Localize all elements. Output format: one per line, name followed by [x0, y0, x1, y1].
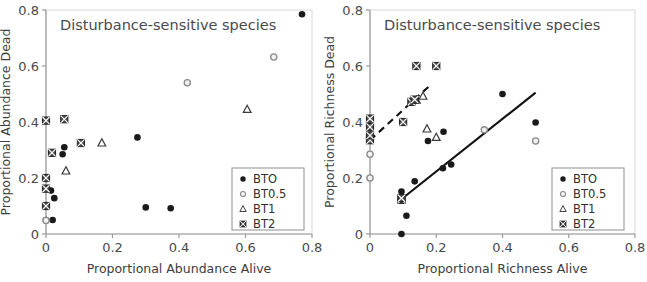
richness-scatter-plot: 00.20.40.60.800.20.40.60.8Proportional R… [324, 0, 647, 282]
data-point-BT2 [400, 118, 407, 125]
legend[interactable]: BTOBT0.5BT1BT2 [552, 168, 624, 231]
x-tick-label: 0 [366, 240, 374, 255]
legend-label: BT2 [573, 217, 595, 231]
data-point-BT2 [42, 202, 49, 209]
data-point-BTO [448, 161, 455, 168]
x-axis-title: Proportional Richness Alive [418, 261, 588, 276]
x-tick-label: 0.6 [558, 240, 579, 255]
legend-label: BT1 [573, 202, 595, 216]
data-point-BT2 [433, 62, 440, 69]
legend-marker-open-circle [560, 191, 565, 196]
data-point-BTO [425, 138, 432, 145]
data-point-BT2 [398, 195, 405, 202]
x-tick-label: 0 [42, 240, 50, 255]
data-point-BT2 [366, 123, 373, 130]
y-tick-label: 0.8 [18, 3, 39, 18]
panel-title: Disturbance-sensitive species [384, 17, 600, 33]
data-point-BT2 [413, 62, 420, 69]
data-point-BT2 [366, 132, 373, 139]
data-point-BT0.5 [43, 217, 49, 223]
legend-marker-filled-circle [560, 176, 565, 181]
legend-label: BT0.5 [573, 187, 606, 201]
data-point-BTO [299, 11, 306, 18]
x-tick-label: 0.8 [625, 240, 646, 255]
data-point-BT2 [77, 139, 84, 146]
panel-richness: 00.20.40.60.800.20.40.60.8Proportional R… [324, 0, 647, 282]
abundance-scatter-plot: 00.20.40.60.800.20.40.60.8Proportional A… [0, 0, 324, 282]
x-tick-label: 0.6 [235, 240, 256, 255]
y-tick-label: 0.6 [342, 59, 363, 74]
legend-label: BT2 [253, 217, 275, 231]
data-point-BTO [398, 231, 405, 238]
data-point-BTO [59, 151, 66, 158]
data-point-BTO [134, 134, 141, 141]
legend-marker-crossed-square [560, 221, 566, 227]
y-tick-label: 0 [355, 227, 363, 242]
y-tick-label: 0.4 [18, 115, 39, 130]
data-point-BTO [411, 178, 418, 185]
x-tick-label: 0.4 [169, 240, 190, 255]
data-point-BT0.5 [533, 138, 539, 144]
data-point-BTO [167, 205, 174, 212]
y-tick-label: 0.8 [342, 3, 363, 18]
legend-label: BT1 [253, 202, 275, 216]
y-tick-label: 0 [31, 227, 39, 242]
y-tick-label: 0.2 [342, 171, 363, 186]
data-point-BT2 [42, 174, 49, 181]
data-point-BT2 [42, 117, 49, 124]
y-tick-label: 0.6 [18, 59, 39, 74]
x-tick-label: 0.2 [426, 240, 447, 255]
x-tick-label: 0.2 [102, 240, 123, 255]
data-point-BTO [440, 129, 447, 136]
legend-marker-crossed-square [240, 221, 246, 227]
panel-title: Disturbance-sensitive species [60, 17, 276, 33]
legend[interactable]: BTOBT0.5BT1BT2 [232, 168, 304, 231]
legend-label: BTO [253, 172, 277, 186]
y-axis-title: Proportional Abundance Dead [0, 29, 13, 216]
data-point-BT2 [61, 116, 68, 123]
data-point-BTO [49, 217, 56, 224]
data-point-BT0.5 [367, 175, 373, 181]
legend-marker-filled-circle [240, 176, 245, 181]
data-point-BT0.5 [184, 80, 190, 86]
data-point-BT0.5 [367, 151, 373, 157]
x-tick-label: 0.8 [302, 240, 323, 255]
data-point-BTO [61, 144, 68, 151]
data-point-BTO [403, 213, 410, 220]
data-point-BTO [142, 204, 149, 211]
y-axis-title: Proportional Richness Dead [324, 36, 337, 208]
figure-container: 00.20.40.60.800.20.40.60.8Proportional A… [0, 0, 647, 282]
y-tick-label: 0.2 [18, 171, 39, 186]
data-point-BT2 [48, 149, 55, 156]
legend-marker-open-circle [240, 191, 245, 196]
legend-label: BTO [573, 172, 597, 186]
data-point-BTO [532, 119, 539, 126]
x-tick-label: 0.4 [492, 240, 513, 255]
data-point-BT2 [42, 185, 49, 192]
legend-label: BT0.5 [253, 187, 286, 201]
data-point-BT0.5 [271, 54, 277, 60]
data-point-BT2 [366, 115, 373, 122]
data-point-BT0.5 [481, 127, 487, 133]
panel-abundance: 00.20.40.60.800.20.40.60.8Proportional A… [0, 0, 324, 282]
data-point-BTO [440, 165, 447, 172]
data-point-BTO [51, 195, 58, 202]
y-tick-label: 0.4 [342, 115, 363, 130]
x-axis-title: Proportional Abundance Alive [87, 261, 272, 276]
data-point-BTO [499, 91, 506, 98]
data-point-BT2 [411, 96, 418, 103]
data-point-BTO [398, 188, 405, 195]
